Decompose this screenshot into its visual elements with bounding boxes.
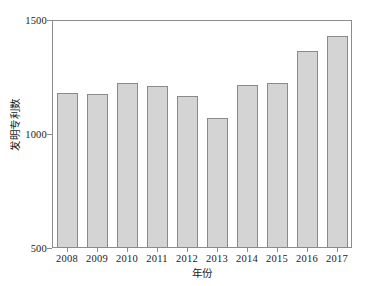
x-tick-mark — [187, 248, 188, 252]
bar-chart: 发明专利数 50010001500 2008200920102011201220… — [0, 0, 365, 286]
bars-layer — [52, 20, 352, 248]
y-tick-label: 1500 — [7, 15, 47, 26]
x-tick-mark — [307, 248, 308, 252]
y-tick-label: 500 — [7, 243, 47, 254]
bar — [177, 96, 198, 248]
x-axis-title: 年份 — [52, 265, 352, 280]
x-tick-mark — [217, 248, 218, 252]
x-tick-mark — [337, 248, 338, 252]
x-tick-mark — [277, 248, 278, 252]
bar — [237, 85, 258, 248]
x-tick-mark — [127, 248, 128, 252]
y-axis-title-label: 发明专利数 — [7, 98, 22, 151]
x-tick-mark — [157, 248, 158, 252]
x-tick-mark — [97, 248, 98, 252]
bar — [147, 86, 168, 248]
y-axis-title: 发明专利数 — [2, 0, 26, 248]
bar — [267, 83, 288, 248]
bar — [117, 83, 138, 248]
bar — [327, 36, 348, 248]
y-tick-mark — [47, 248, 52, 249]
bar — [207, 118, 228, 248]
bar — [87, 94, 108, 248]
bar — [297, 51, 318, 248]
x-tick-mark — [247, 248, 248, 252]
x-tick-mark — [67, 248, 68, 252]
bar — [57, 93, 78, 248]
x-tick-label: 2017 — [317, 253, 357, 264]
y-tick-label: 1000 — [7, 129, 47, 140]
